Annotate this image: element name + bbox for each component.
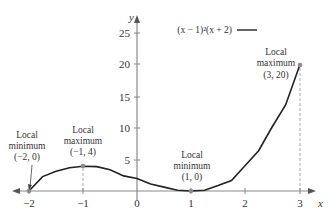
x-tick-label: 0 xyxy=(134,197,140,209)
svg-text:(−1, 4): (−1, 4) xyxy=(70,147,96,158)
chart: −2 −1 0 1 2 3 25 20 15 10 5 y x Local mi… xyxy=(0,0,332,221)
x-axis-arrow-right-icon xyxy=(308,188,316,194)
legend-label: (x − 1)²(x + 2) xyxy=(177,25,232,36)
x-axis-arrow-left-icon xyxy=(12,188,20,194)
svg-text:maximum: maximum xyxy=(257,58,296,68)
y-axis-label: y xyxy=(128,11,134,23)
y-axis-arrow-icon xyxy=(134,15,140,23)
annotation-local-max-neg1: Local maximum (−1, 4) xyxy=(64,125,103,158)
x-tick-label: 3 xyxy=(297,197,303,209)
svg-text:Local: Local xyxy=(16,130,38,140)
x-tick-label: 1 xyxy=(188,197,194,209)
y-tick-label: 10 xyxy=(119,122,131,134)
y-tick-label: 25 xyxy=(119,27,131,39)
svg-text:maximum: maximum xyxy=(64,136,103,146)
svg-text:minimum: minimum xyxy=(9,141,47,151)
svg-text:(1, 0): (1, 0) xyxy=(182,172,203,183)
x-tick-label: −1 xyxy=(77,197,89,209)
svg-text:(−2, 0): (−2, 0) xyxy=(14,152,40,163)
annotation-local-min-1: Local minimum (1, 0) xyxy=(174,150,212,183)
x-tick-label: −2 xyxy=(23,197,35,209)
x-tick-label: 2 xyxy=(242,197,248,209)
point-local-max-2 xyxy=(298,63,303,68)
svg-text:Local: Local xyxy=(265,47,287,57)
legend: (x − 1)²(x + 2) xyxy=(177,25,257,36)
point-local-max-1 xyxy=(81,164,86,169)
y-tick-label: 20 xyxy=(119,58,131,70)
annotation-local-max-3: Local maximum (3, 20) xyxy=(257,47,296,81)
svg-text:(3, 20): (3, 20) xyxy=(263,70,288,81)
svg-text:Local: Local xyxy=(72,125,94,135)
annotation-local-min-neg2: Local minimum (−2, 0) xyxy=(9,130,47,190)
curve-series xyxy=(29,65,300,191)
svg-text:minimum: minimum xyxy=(174,161,212,171)
svg-text:Local: Local xyxy=(181,150,203,160)
y-tick-label: 5 xyxy=(125,154,131,166)
x-axis-label: x xyxy=(317,197,323,209)
point-local-min-2 xyxy=(189,189,194,194)
y-tick-label: 15 xyxy=(119,91,131,103)
